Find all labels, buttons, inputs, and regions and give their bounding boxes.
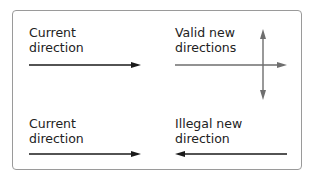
arrows-layer bbox=[0, 0, 313, 178]
valid-right-arrow-icon bbox=[175, 62, 287, 68]
bottom-left-right-arrow-icon bbox=[29, 151, 141, 157]
valid-up-arrow-icon bbox=[260, 29, 266, 65]
valid-down-arrow-icon bbox=[260, 65, 266, 100]
top-left-right-arrow-icon bbox=[29, 62, 141, 68]
illegal-left-arrow-icon bbox=[175, 151, 287, 157]
